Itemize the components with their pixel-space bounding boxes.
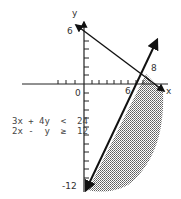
inequality-2: 2x - y ≥ 12	[12, 126, 88, 136]
x-intercept-label: 6	[125, 87, 131, 96]
y-bottom-label: -12	[62, 182, 77, 191]
inequality-1: 3x + 4y < 24	[12, 116, 88, 126]
origin-label: 0	[75, 89, 81, 98]
line-3x-4y-24	[76, 25, 164, 91]
y-intercept-label: 6	[67, 27, 73, 36]
x-axis-label: x	[166, 87, 171, 96]
y-axis-label: y	[72, 9, 77, 18]
x-point-label: 8	[151, 64, 157, 73]
coordinate-graph	[0, 0, 181, 199]
y-axis-ticks	[84, 41, 89, 178]
x-axis-ticks	[58, 80, 143, 84]
